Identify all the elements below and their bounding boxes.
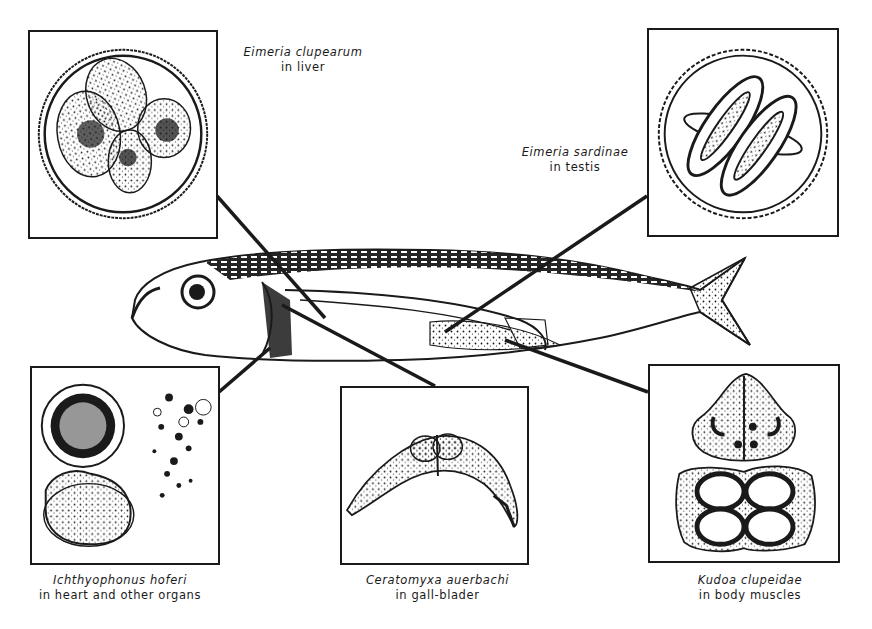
species-name: Ichthyophonus hoferi [20,573,220,588]
kudoa-clupeidae-spore-icon [650,366,838,561]
organ-location: in body muscles [655,588,845,603]
figure: Eimeria clupearum in liver Eimeria sardi… [0,0,872,629]
organ-location: in testis [505,160,645,175]
label-ceratomyxa-auerbachi: Ceratomyxa auerbachi in gall-blader [345,573,530,603]
panel-ceratomyxa-auerbachi [340,386,529,565]
label-eimeria-sardinae: Eimeria sardinae in testis [505,145,645,175]
ichthyophonus-hoferi-spores-icon [32,368,218,563]
organ-location: in liver [228,60,378,75]
species-name: Eimeria clupearum [228,45,378,60]
panel-eimeria-sardinae [647,28,839,237]
panel-eimeria-clupearum [28,30,218,239]
label-ichthyophonus-hoferi: Ichthyophonus hoferi in heart and other … [20,573,220,603]
connector-muscles [505,340,648,392]
species-name: Eimeria sardinae [505,145,645,160]
organ-location: in heart and other organs [20,588,220,603]
organ-location: in gall-blader [345,588,530,603]
species-name: Kudoa clupeidae [655,573,845,588]
eimeria-clupearum-oocyst-icon [30,32,216,237]
label-kudoa-clupeidae: Kudoa clupeidae in body muscles [655,573,845,603]
ceratomyxa-auerbachi-spore-icon [342,388,527,563]
species-name: Ceratomyxa auerbachi [345,573,530,588]
panel-ichthyophonus-hoferi [30,366,220,565]
eimeria-sardinae-oocyst-icon [649,30,837,235]
panel-kudoa-clupeidae [648,364,840,563]
label-eimeria-clupearum: Eimeria clupearum in liver [228,45,378,75]
